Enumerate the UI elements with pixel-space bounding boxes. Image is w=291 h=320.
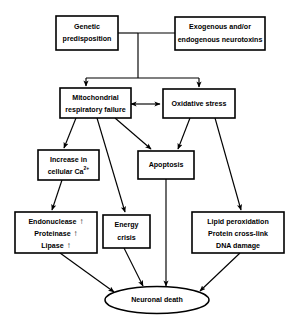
edge-energy-to-death [124, 248, 143, 286]
enzymes-line3: Lipase↑ [41, 241, 71, 250]
genetic-predisposition-box [56, 16, 118, 50]
edge-mitochondrial-to-energy [97, 118, 125, 212]
node-enzymes[interactable]: Endonuclease↑ Proteinase↑ Lipase↑ [15, 212, 97, 253]
enzymes-line2-uparrow: ↑ [74, 229, 78, 238]
damage-line3: DNA damage [216, 242, 260, 250]
calcium-increase-line1: Increase in [50, 156, 87, 164]
node-neurotoxins[interactable]: Exogenous and/or endogenous neurotoxins [175, 17, 265, 50]
enzymes-line3-uparrow: ↑ [67, 241, 71, 250]
node-mitochondrial-failure[interactable]: Mitochondrial respiratory failure [60, 88, 131, 118]
flowchart-canvas: Genetic predisposition Exogenous and/or … [0, 0, 291, 320]
genetic-predisposition-line1: Genetic [74, 23, 100, 31]
enzymes-line2-text: Proteinase [34, 230, 70, 238]
node-energy-crisis[interactable]: Energy crisis [103, 215, 150, 248]
damage-line2: Protein cross-link [208, 230, 268, 238]
oxidative-stress-label: Oxidative stress [172, 100, 227, 108]
neurotoxins-line1: Exogenous and/or [189, 23, 251, 31]
enzymes-line1-uparrow: ↑ [80, 217, 84, 226]
edge-calcium-to-enzymes [52, 180, 62, 210]
enzymes-line1: Endonuclease↑ [28, 217, 83, 226]
mitochondrial-failure-line1: Mitochondrial [72, 94, 119, 102]
calcium-increase-line2-text: cellular Ca [48, 168, 84, 176]
node-damage[interactable]: Lipid peroxidation Protein cross-link DN… [192, 212, 284, 253]
node-apoptosis[interactable]: Apoptosis [138, 151, 194, 179]
edge-oxidative-to-apoptosis [178, 118, 190, 149]
genetic-predisposition-line2: predisposition [63, 35, 112, 43]
energy-crisis-line2: crisis [117, 234, 136, 242]
energy-crisis-line1: Energy [114, 221, 138, 229]
edge-mitochondrial-to-apoptosis [115, 118, 151, 149]
enzymes-line1-text: Endonuclease [28, 218, 76, 226]
node-oxidative-stress[interactable]: Oxidative stress [163, 89, 235, 118]
neuronal-death-label: Neuronal death [131, 296, 183, 304]
calcium-charge-superscript: 2+ [84, 165, 90, 171]
calcium-increase-line2: cellular Ca2+ [48, 165, 90, 176]
edge-oxidative-to-damage [215, 118, 241, 210]
edge-mitochondrial-to-calcium [64, 118, 76, 148]
apoptosis-label: Apoptosis [149, 161, 184, 169]
flowchart-figure: Genetic predisposition Exogenous and/or … [0, 0, 291, 320]
edge-enzymes-to-death [60, 253, 114, 292]
enzymes-line3-text: Lipase [41, 242, 64, 250]
mitochondrial-failure-line2: respiratory failure [65, 106, 125, 114]
damage-line1: Lipid peroxidation [207, 218, 268, 226]
node-calcium-increase[interactable]: Increase in cellular Ca2+ [38, 150, 99, 180]
neurotoxins-line2: endogenous neurotoxins [178, 36, 263, 44]
node-genetic-predisposition[interactable]: Genetic predisposition [56, 16, 118, 50]
node-neuronal-death[interactable]: Neuronal death [105, 287, 209, 314]
edge-damage-to-death [200, 253, 240, 291]
